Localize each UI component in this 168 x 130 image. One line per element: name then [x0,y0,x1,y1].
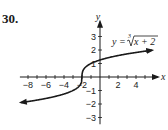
equation-label: y =3x + 2 [111,33,158,47]
x-tick-label: −6 [41,80,51,90]
radicand: x + 2 [133,36,155,47]
radical-index: 3 [127,33,131,39]
function-graph: −8−6−4−224−3−2−1123xyy =3x + 2 [0,0,168,130]
y-tick-label: −2 [86,99,96,109]
x-tick-label: 2 [115,80,120,90]
x-tick-label: −4 [59,80,69,90]
y-tick-label: −3 [86,113,96,123]
y-tick-label: −1 [86,86,96,96]
x-axis-label: x [160,71,166,82]
y-tick-label: 3 [91,32,96,42]
equation-lhs: y = [111,36,126,47]
left-arrowhead-icon [19,99,27,105]
x-tick-label: −8 [23,80,33,90]
y-tick-label: 2 [91,45,96,55]
y-axis-label: y [95,11,101,22]
y-tick-label: 1 [91,59,96,69]
labels: −8−6−4−224−3−2−1123xyy =3x + 2 [23,11,166,123]
x-tick-label: 4 [133,80,138,90]
